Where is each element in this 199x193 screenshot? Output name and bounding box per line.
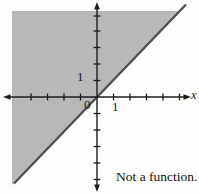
y-axis-up-arrow-icon [94, 2, 100, 10]
x-axis-right-arrow-icon [184, 94, 192, 100]
inequality-graph-figure: 1 1 0 x Not a function. [0, 0, 199, 193]
figure-caption: Not a function. [116, 170, 197, 184]
y-axis-tick-label-1: 1 [77, 70, 84, 83]
y-axis-down-arrow-icon [94, 185, 100, 193]
x-axis-left-arrow-icon [3, 94, 11, 100]
origin-label: 0 [84, 98, 91, 111]
x-axis-tick-label-1: 1 [112, 100, 119, 113]
x-axis-label: x [191, 89, 197, 102]
coordinate-plane [0, 0, 199, 193]
